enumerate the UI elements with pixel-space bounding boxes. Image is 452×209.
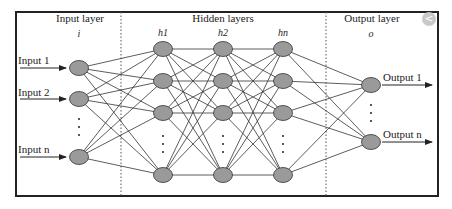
input-label-1: Input 1 — [18, 54, 49, 66]
node-layer1-1 — [154, 74, 173, 89]
node-layer0-2 — [70, 150, 89, 165]
hidden-symbol-n: hn — [278, 27, 288, 38]
node-layer3-3 — [274, 168, 293, 183]
node-layer3-2 — [274, 106, 293, 121]
node-layer4-0 — [362, 78, 381, 93]
output-symbol: o — [369, 28, 374, 39]
neural-network-diagram: Input layer Hidden layers Output layer i… — [0, 0, 452, 209]
node-layer2-0 — [214, 42, 233, 57]
hidden-symbol-1: h1 — [158, 27, 168, 38]
node-layer3-1 — [274, 74, 293, 89]
input-symbol: i — [78, 28, 81, 39]
output-label-1: Output 1 — [383, 71, 422, 83]
node-layer2-2 — [214, 106, 233, 121]
nodes — [70, 42, 381, 183]
node-layer2-1 — [214, 74, 233, 89]
close-button[interactable]: < — [422, 12, 436, 26]
node-layer1-0 — [154, 42, 173, 57]
input-layer-heading: Input layer — [56, 12, 104, 24]
node-layer0-0 — [70, 61, 89, 76]
hidden-layers-heading: Hidden layers — [192, 12, 253, 24]
hidden-symbol-2: h2 — [218, 27, 228, 38]
input-label-n: Input n — [18, 143, 50, 155]
node-layer0-1 — [70, 92, 89, 107]
node-layer3-0 — [274, 42, 293, 57]
input-label-2: Input 2 — [18, 86, 49, 98]
node-layer1-3 — [154, 168, 173, 183]
output-label-n: Output n — [383, 128, 422, 140]
output-layer-heading: Output layer — [344, 12, 400, 24]
node-layer4-1 — [362, 135, 381, 150]
node-layer2-3 — [214, 168, 233, 183]
node-layer1-2 — [154, 106, 173, 121]
